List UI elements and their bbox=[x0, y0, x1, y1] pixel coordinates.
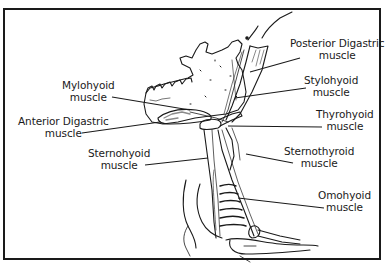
leader-lines bbox=[82, 58, 324, 208]
leader-omohyoid bbox=[238, 198, 324, 208]
mandible-drawing bbox=[144, 40, 246, 124]
clavicle-drawing bbox=[183, 180, 318, 262]
leader-sternohyoid bbox=[145, 158, 208, 165]
skull-base-drawing bbox=[246, 12, 292, 40]
leader-mylohyoid bbox=[112, 97, 190, 110]
leader-thyrohyoid bbox=[228, 126, 322, 127]
label-sternothyroid: Sternothyroid muscle bbox=[284, 146, 354, 169]
label-sternohyoid: Sternohyoid muscle bbox=[88, 148, 150, 171]
label-anterior-digastric: Anterior Digastric muscle bbox=[18, 116, 109, 139]
anterior-digastric-drawing bbox=[158, 109, 228, 124]
label-posterior-digastric: Posterior Digastric muscle bbox=[290, 38, 385, 61]
label-mylohyoid: Mylohyoid muscle bbox=[62, 80, 115, 103]
label-omohyoid: Omohyoid muscle bbox=[318, 190, 371, 213]
label-thyrohyoid: Thyrohyoid muscle bbox=[316, 109, 374, 132]
label-stylohyoid: Stylohyoid muscle bbox=[304, 75, 358, 98]
